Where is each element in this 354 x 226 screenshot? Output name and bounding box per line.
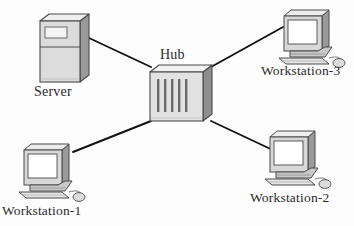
server-drive-bay (45, 27, 67, 38)
server-top-face (40, 14, 89, 21)
hub-vent-slot (178, 79, 180, 112)
link-workstation1-hub (73, 121, 151, 152)
ws1-mouse (73, 193, 85, 202)
hub-vent-slot (185, 79, 187, 112)
ws1-monitor-side (62, 144, 69, 185)
ws1-screen (28, 154, 57, 178)
ws2-mouse (319, 180, 331, 189)
server-node[interactable] (40, 14, 89, 82)
ws2-monitor-top (270, 131, 315, 137)
workstation-1-node[interactable] (19, 144, 85, 201)
ws2-monitor-side (308, 131, 315, 172)
ws3-screen (288, 20, 317, 44)
workstation-2-label: Workstation-2 (250, 190, 330, 206)
workstation-1-label: Workstation-1 (2, 203, 82, 219)
hub-side-face (203, 65, 212, 121)
link-server-hub (89, 38, 151, 67)
workstation-3-label: Workstation-3 (261, 63, 341, 79)
network-diagram: Server Hub Workstation-3 Workstation-1 W… (0, 0, 354, 226)
server-label: Server (34, 84, 72, 100)
workstation-3-node[interactable] (279, 10, 345, 67)
hub-top-face (150, 65, 212, 72)
link-workstation3-hub (211, 27, 283, 67)
workstation-2-node[interactable] (265, 131, 331, 188)
link-workstation2-hub (211, 121, 277, 152)
hub-label: Hub (160, 47, 185, 63)
ws3-monitor-side (322, 10, 329, 51)
hub-vent-slot (164, 79, 166, 112)
ws2-screen (274, 141, 303, 165)
ws3-monitor-top (284, 10, 329, 16)
hub-vent-slot (157, 79, 159, 112)
ws1-monitor-top (24, 144, 69, 150)
server-side-face (80, 14, 89, 82)
hub-vent-slot (171, 79, 173, 112)
hub-node[interactable] (150, 65, 212, 121)
